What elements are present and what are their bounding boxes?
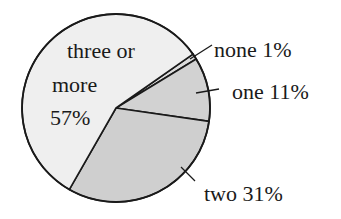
label-three-line1: three or (67, 38, 135, 63)
pie-chart: three or more 57% none 1% one 11% two 31… (0, 0, 341, 219)
leader-none (190, 45, 212, 59)
label-three-line3: 57% (50, 105, 90, 130)
label-one: one 11% (232, 79, 309, 104)
label-none: none 1% (214, 37, 292, 62)
label-two: two 31% (204, 181, 283, 206)
label-three-line2: more (52, 72, 97, 97)
